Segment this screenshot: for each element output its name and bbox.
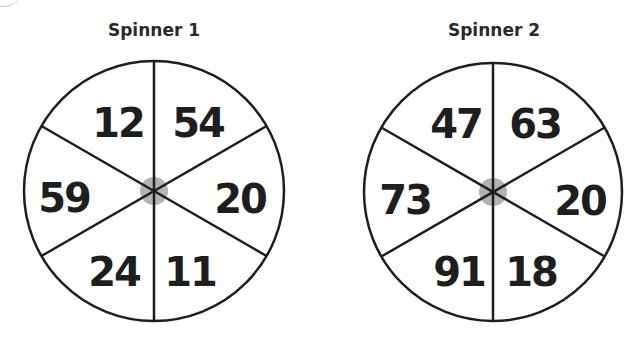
- spinner-2-section-right: 20: [554, 178, 606, 224]
- spinner-2-section-left: 73: [379, 177, 431, 223]
- spinner-2-section-top-right: 63: [509, 101, 561, 147]
- spinner-2-section-bottom-right: 18: [505, 249, 557, 295]
- spinner-2-section-bottom-left: 91: [433, 249, 485, 295]
- spinner-2-section-top-left: 47: [430, 101, 482, 147]
- spinner-2: 47 63 20 18 91 73: [0, 0, 641, 348]
